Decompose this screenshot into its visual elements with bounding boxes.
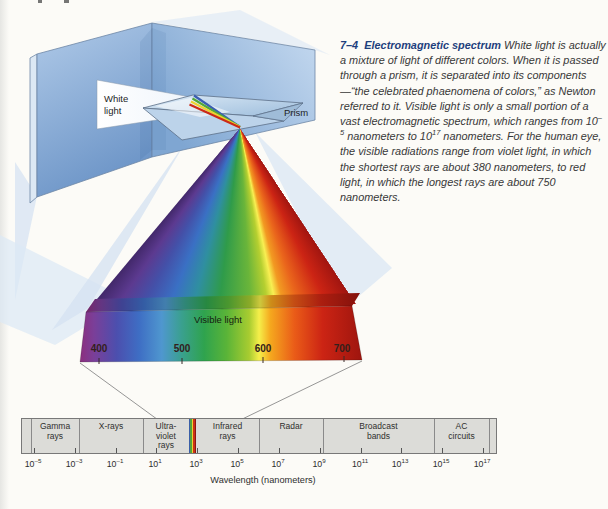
em-segment-ultra-violet-rays: Ultra-violetrays — [143, 419, 189, 453]
caption-body: White light is actually a mixture of lig… — [340, 39, 606, 127]
em-axis-tick-mark — [156, 448, 157, 453]
band-wavelength-number: 400 — [82, 343, 116, 354]
axis-tick-label: 10–3 — [57, 457, 91, 469]
em-segment-label: circuits — [448, 432, 474, 442]
em-segment-label: rays — [219, 432, 235, 442]
em-strip-stripe — [195, 419, 196, 453]
axis-tick-exponent: 7 — [281, 457, 284, 464]
em-axis-tick-mark — [361, 448, 362, 453]
caption-number: 7–4 — [340, 39, 358, 51]
axis-tick-base: 10 — [271, 459, 281, 469]
axis-tick-label: 103 — [179, 457, 213, 469]
band-wavelength-number: 500 — [165, 343, 199, 354]
axis-tick-label: 109 — [302, 457, 336, 469]
wavelength-axis-label: Wavelength (nanometers) — [158, 475, 368, 485]
axis-tick-label: 1015 — [424, 457, 458, 469]
axis-tick-exponent: 15 — [442, 457, 449, 464]
em-spectrum-bar: GammaraysX-raysUltra-violetraysInfraredr… — [21, 418, 497, 454]
band-wavelength-number: 600 — [246, 343, 280, 354]
em-axis-tick-mark — [279, 448, 280, 453]
axis-tick-label: 107 — [261, 457, 295, 469]
figure-caption: 7–4 Electromagnetic spectrum White light… — [340, 38, 606, 205]
axis-tick-base: 10 — [392, 459, 402, 469]
axis-tick-base: 10 — [189, 459, 199, 469]
em-axis-tick-mark — [197, 448, 198, 453]
em-visible-light-strip — [189, 419, 196, 453]
axis-tick-label: 10–1 — [98, 457, 132, 469]
axis-tick-exponent: 13 — [401, 457, 408, 464]
em-segment-label: rays — [47, 432, 63, 442]
em-axis-tick-mark — [442, 448, 443, 453]
em-axis-tick-mark — [320, 448, 321, 453]
axis-tick-base: 10 — [148, 459, 158, 469]
axis-tick-exponent: 9 — [322, 457, 325, 464]
axis-tick-base: 10 — [312, 459, 322, 469]
axis-tick-exponent: –5 — [34, 457, 41, 464]
refracted-beam-red — [190, 105, 241, 128]
prism-label: Prism — [284, 107, 308, 118]
axis-tick-exponent: 11 — [362, 457, 368, 464]
axis-tick-exponent: 1 — [158, 457, 161, 464]
em-segment-divider — [489, 419, 490, 453]
em-axis-tick-mark — [116, 448, 117, 453]
em-segment-x-rays: X-rays — [79, 419, 143, 453]
axis-tick-label: 1017 — [465, 457, 499, 469]
axis-tick-base: 10 — [107, 459, 117, 469]
axis-tick-base: 10 — [230, 459, 240, 469]
em-axis-tick-mark — [238, 448, 239, 453]
axis-tick-base: 10 — [474, 459, 484, 469]
caption-body: nanometers to 10 — [344, 130, 432, 142]
white-light-label: White light — [104, 93, 144, 116]
axis-tick-exponent: 17 — [483, 457, 490, 464]
axis-tick-exponent: 5 — [240, 457, 243, 464]
axis-tick-label: 101 — [138, 457, 172, 469]
caption-title: Electromagnetic spectrum — [364, 39, 501, 51]
em-segment-broadcast-bands: Broadcastbands — [323, 419, 434, 453]
axis-tick-label: 10–5 — [16, 457, 50, 469]
axis-tick-base: 10 — [25, 459, 35, 469]
em-axis-tick-mark — [483, 448, 484, 453]
axis-tick-base: 10 — [433, 459, 443, 469]
em-segment-label: X-rays — [99, 422, 124, 432]
axis-tick-label: 1011 — [343, 457, 377, 469]
axis-tick-label: 105 — [220, 457, 254, 469]
em-axis-tick-mark — [34, 448, 35, 453]
band-wavelength-number: 700 — [325, 343, 359, 354]
em-axis-tick-mark — [401, 448, 402, 453]
axis-tick-exponent: 3 — [199, 457, 202, 464]
em-segment-radar: Radar — [259, 419, 323, 453]
em-segment-gamma-rays: Gammarays — [31, 419, 79, 453]
axis-tick-base: 10 — [352, 459, 362, 469]
axis-tick-exponent: –1 — [116, 457, 123, 464]
axis-tick-label: 1013 — [383, 457, 417, 469]
em-segment-label: rays — [158, 441, 174, 451]
em-segment-infrared-rays: Infraredrays — [196, 419, 259, 453]
textbook-figure-page: White light Prism Visible light 40050060… — [0, 0, 608, 509]
visible-light-label: Visible light — [158, 314, 278, 325]
em-segment-label: bands — [367, 432, 390, 442]
axis-tick-base: 10 — [66, 459, 76, 469]
axis-tick-exponent: –3 — [75, 457, 82, 464]
em-segment-label: Radar — [279, 422, 302, 432]
em-axis-tick-mark — [75, 448, 76, 453]
